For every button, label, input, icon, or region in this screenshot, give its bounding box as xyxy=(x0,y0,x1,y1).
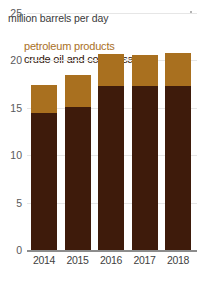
x-axis-tick-label-2016: 2016 xyxy=(94,254,128,266)
x-axis-tick-label-2017: 2017 xyxy=(128,254,162,266)
bar-2016[interactable] xyxy=(98,54,124,250)
bar-2017[interactable] xyxy=(132,55,158,250)
y-axis-tick-label: 15 xyxy=(0,102,22,114)
x-axis-tick-label-2014: 2014 xyxy=(27,254,61,266)
bar-segment-petroleum-products[interactable] xyxy=(31,85,57,114)
bar-segment-petroleum-products[interactable] xyxy=(132,55,158,85)
bar-segment-crude-oil-and-condensate[interactable] xyxy=(132,86,158,250)
y-axis-tick-label: 5 xyxy=(0,197,22,209)
bar-segment-petroleum-products[interactable] xyxy=(165,53,191,85)
gridline xyxy=(27,13,197,14)
y-axis-tick-label: 25 xyxy=(0,7,22,19)
bar-segment-crude-oil-and-condensate[interactable] xyxy=(165,86,191,250)
y-axis-tick-label: 0 xyxy=(0,244,22,256)
bar-segment-crude-oil-and-condensate[interactable] xyxy=(98,86,124,250)
x-axis-tick-label-2015: 2015 xyxy=(61,254,95,266)
y-axis-tick-label: 20 xyxy=(0,54,22,66)
bar-segment-crude-oil-and-condensate[interactable] xyxy=(65,107,91,250)
bar-segment-crude-oil-and-condensate[interactable] xyxy=(31,113,57,250)
bar-2014[interactable] xyxy=(31,85,57,250)
chart-container: million barrels per day petroleum produc… xyxy=(0,0,201,282)
plot-area: 2520151050 20142015201620172018 xyxy=(0,0,201,282)
x-axis-baseline xyxy=(27,250,197,252)
bar-2018[interactable] xyxy=(165,53,191,250)
bar-segment-petroleum-products[interactable] xyxy=(65,75,91,106)
bar-2015[interactable] xyxy=(65,75,91,250)
y-axis-tick-label: 10 xyxy=(0,149,22,161)
x-axis-tick-label-2018: 2018 xyxy=(161,254,195,266)
bar-segment-petroleum-products[interactable] xyxy=(98,54,124,85)
